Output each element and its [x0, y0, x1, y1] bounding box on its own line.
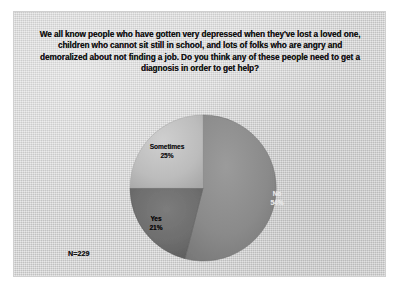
pie-label-no: No 54%	[257, 190, 297, 207]
pie-label-sometimes-name: Sometimes	[150, 143, 185, 150]
sample-size-annotation: N=229	[68, 249, 89, 258]
pie-label-sometimes: Sometimes 25%	[138, 143, 196, 160]
pie-label-sometimes-pct: 25%	[138, 152, 196, 161]
slide-title: We all know people who have gotten very …	[34, 29, 366, 75]
pie-label-no-pct: 54%	[257, 199, 297, 208]
pie-label-yes-pct: 21%	[136, 224, 176, 233]
presentation-slide: We all know people who have gotten very …	[14, 12, 385, 276]
scanned-slide-canvas: We all know people who have gotten very …	[0, 0, 399, 294]
pie-chart	[127, 112, 279, 264]
pie-label-no-name: No	[273, 190, 282, 197]
pie-label-yes-name: Yes	[150, 215, 161, 222]
pie-label-yes: Yes 21%	[136, 215, 176, 232]
pie-chart-svg	[127, 112, 279, 264]
